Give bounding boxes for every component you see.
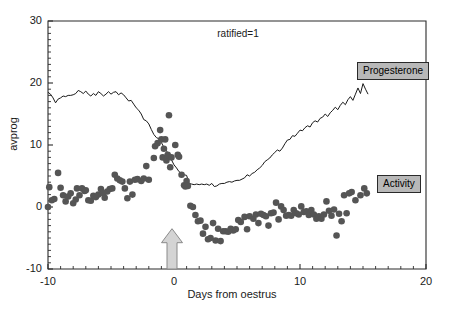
chart-figure: ratified=1 avprog Days from oestrus -100…	[0, 0, 449, 312]
data-series	[45, 84, 370, 245]
x-tick-label: -10	[23, 275, 73, 287]
x-axis-label: Days from oestrus	[152, 288, 312, 300]
y-tick-label: 30	[0, 14, 42, 26]
y-tick-label: -10	[0, 262, 42, 274]
plot-canvas	[0, 0, 449, 312]
legend-activity: Activity	[377, 175, 421, 193]
x-tick-label: 10	[275, 275, 325, 287]
series-line-0	[48, 84, 368, 187]
x-tick-label: 20	[401, 275, 449, 287]
y-tick-label: 0	[0, 200, 42, 212]
legend-progesterone: Progesterone	[357, 62, 429, 80]
x-tick-label: 0	[149, 275, 199, 287]
y-axis-label: avprog	[7, 104, 19, 164]
annotations	[162, 229, 183, 269]
oestrus-arrow-icon	[162, 229, 183, 269]
y-tick-label: 10	[0, 138, 42, 150]
y-tick-label: 20	[0, 76, 42, 88]
series-points-1	[45, 112, 370, 244]
chart-title: ratified=1	[178, 28, 298, 39]
